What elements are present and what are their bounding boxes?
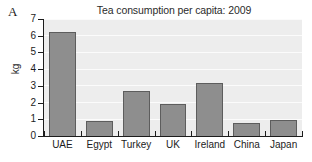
bar-slot <box>155 19 192 136</box>
y-axis-tick <box>38 86 43 87</box>
y-axis-tick-label: 0 <box>0 131 36 141</box>
x-axis-label-ireland: Ireland <box>191 139 228 157</box>
x-axis-tick <box>118 131 119 137</box>
x-axis-label-egypt: Egypt <box>81 139 118 157</box>
plot-area-wrapper <box>44 19 302 136</box>
bar-uae[interactable] <box>49 32 76 136</box>
x-axis-tick <box>44 131 45 137</box>
bar-turkey[interactable] <box>123 91 150 136</box>
bar-egypt[interactable] <box>86 121 113 136</box>
bar-uk[interactable] <box>160 104 187 136</box>
plot-background <box>44 19 302 136</box>
y-axis-tick <box>38 19 43 20</box>
y-axis-tick-label: 1 <box>0 114 36 124</box>
bar-slot <box>118 19 155 136</box>
x-axis-tick <box>302 131 303 137</box>
x-axis-label-japan: Japan <box>265 139 302 157</box>
y-axis-tick-label: 6 <box>0 31 36 41</box>
bar-slot <box>81 19 118 136</box>
bar-slot <box>191 19 228 136</box>
y-axis-tick <box>38 103 43 104</box>
x-axis-tick <box>228 131 229 137</box>
figure-panel: A Tea consumption per capita: 2009 kg 01… <box>0 0 312 162</box>
x-axis-line <box>43 136 303 137</box>
x-axis-category-labels: UAEEgyptTurkeyUKIrelandChinaJapan <box>44 139 302 157</box>
chart-title: Tea consumption per capita: 2009 <box>46 5 302 17</box>
x-axis-tick <box>155 131 156 137</box>
bar-ireland[interactable] <box>196 83 223 136</box>
y-axis-tick <box>38 119 43 120</box>
x-axis-tick <box>191 131 192 137</box>
y-axis-line <box>43 19 44 137</box>
y-axis-tick-label: 5 <box>0 47 36 57</box>
y-axis-tick <box>38 69 43 70</box>
bar-china[interactable] <box>233 123 260 136</box>
y-axis-tick-label: 7 <box>0 14 36 24</box>
y-axis-tick <box>38 52 43 53</box>
bar-slot <box>44 19 81 136</box>
x-axis-tick <box>265 131 266 137</box>
x-axis-label-uae: UAE <box>44 139 81 157</box>
y-axis-tick <box>38 136 43 137</box>
y-axis-tick-label: 3 <box>0 81 36 91</box>
x-axis-label-turkey: Turkey <box>118 139 155 157</box>
y-axis-tick <box>38 36 43 37</box>
x-axis-tick <box>81 131 82 137</box>
bar-japan[interactable] <box>270 120 297 136</box>
bar-slot <box>228 19 265 136</box>
y-axis-tick-labels: 01234567 <box>0 0 36 162</box>
y-axis-tick-label: 4 <box>0 64 36 74</box>
x-axis-label-uk: UK <box>155 139 192 157</box>
bar-series <box>44 19 302 136</box>
x-axis-label-china: China <box>228 139 265 157</box>
bar-slot <box>265 19 302 136</box>
y-axis-tick-label: 2 <box>0 98 36 108</box>
